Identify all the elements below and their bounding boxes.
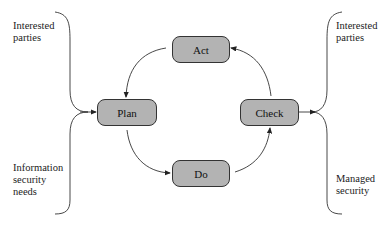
arrow-check-to-act <box>231 48 271 96</box>
output-managed-security: Managed security <box>336 173 375 197</box>
node-act: Act <box>172 36 230 63</box>
input-interested-parties: Interested parties <box>13 20 54 44</box>
node-plan: Plan <box>97 99 157 126</box>
input-information-security-needs: Information security needs <box>13 162 63 198</box>
node-do: Do <box>172 160 230 187</box>
arrow-do-to-check <box>235 128 270 172</box>
output-interested-parties: Interested parties <box>336 20 377 44</box>
node-check: Check <box>240 99 299 126</box>
node-plan-label: Plan <box>117 107 137 119</box>
node-check-label: Check <box>255 107 283 119</box>
node-act-label: Act <box>193 44 209 56</box>
node-do-label: Do <box>194 168 207 180</box>
arrow-plan-to-do <box>127 130 170 173</box>
arrow-act-to-plan <box>126 48 166 97</box>
